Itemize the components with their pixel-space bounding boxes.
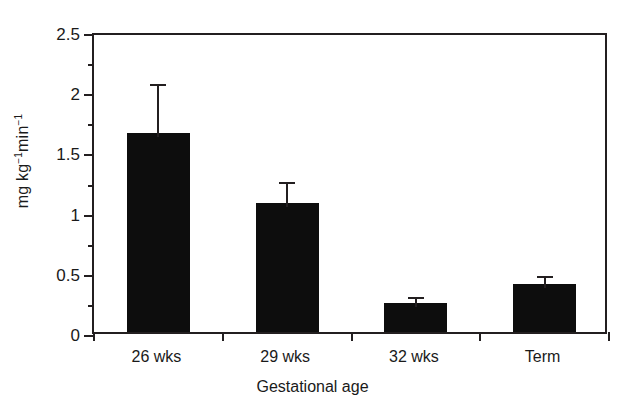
x-axis-tick bbox=[222, 332, 224, 341]
y-axis-tick-minor bbox=[88, 305, 94, 307]
y-axis-tick-label: 0.5 bbox=[56, 266, 80, 286]
y-axis-title: mg kg−1min−1 bbox=[14, 76, 32, 246]
error-bar-stem bbox=[157, 84, 159, 137]
x-axis-tick bbox=[608, 332, 610, 341]
y-axis-tick-major bbox=[84, 215, 94, 217]
x-axis-tick-label: 32 wks bbox=[389, 348, 439, 366]
bar bbox=[127, 133, 190, 332]
y-axis-tick-minor bbox=[88, 124, 94, 126]
bar bbox=[513, 284, 576, 332]
y-axis-tick-minor bbox=[88, 245, 94, 247]
x-axis-tick-label: 26 wks bbox=[131, 348, 181, 366]
bar bbox=[256, 203, 319, 332]
y-axis-tick-major bbox=[84, 275, 94, 277]
error-bar-cap bbox=[279, 182, 295, 184]
error-bar-stem bbox=[286, 182, 288, 207]
y-axis-tick-label: 2 bbox=[71, 85, 80, 105]
x-axis-tick bbox=[93, 332, 95, 341]
y-axis-tick-label: 1 bbox=[71, 206, 80, 226]
error-bar-cap bbox=[150, 84, 166, 86]
error-bar-cap bbox=[537, 276, 553, 278]
y-axis-title-exponent-2: −1 bbox=[13, 114, 24, 126]
y-axis-title-exponent-1: −1 bbox=[13, 152, 24, 164]
x-axis-title: Gestational age bbox=[0, 378, 625, 396]
x-axis-tick bbox=[351, 332, 353, 341]
x-axis-tick bbox=[479, 332, 481, 341]
y-axis-title-prefix: mg kg bbox=[14, 164, 31, 209]
y-axis-tick-label: 2.5 bbox=[56, 25, 80, 45]
bar-chart-figure: mg kg−1min−1 00.511.522.5 26 wks29 wks32… bbox=[0, 0, 625, 415]
y-axis-title-middle: min bbox=[14, 126, 31, 152]
x-axis-tick-label: 29 wks bbox=[260, 348, 310, 366]
y-axis-tick-minor bbox=[88, 185, 94, 187]
error-bar-cap bbox=[408, 297, 424, 299]
y-axis-tick-major bbox=[84, 34, 94, 36]
y-axis-tick-label: 0 bbox=[71, 326, 80, 346]
y-axis-tick-major bbox=[84, 154, 94, 156]
y-axis-tick-major bbox=[84, 94, 94, 96]
bar bbox=[384, 303, 447, 332]
x-axis-tick-label: Term bbox=[525, 348, 561, 366]
y-axis-tick-label: 1.5 bbox=[56, 145, 80, 165]
y-axis-tick-minor bbox=[88, 64, 94, 66]
plot-area: 00.511.522.5 bbox=[92, 33, 607, 334]
